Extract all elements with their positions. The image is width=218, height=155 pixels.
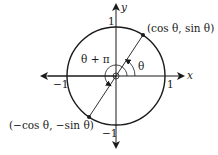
theta-plus-pi-label: θ + π bbox=[81, 54, 110, 65]
x-axis-label: x bbox=[187, 70, 193, 81]
tick-x-neg: −1 bbox=[53, 79, 68, 90]
point-cos-sin bbox=[141, 33, 145, 37]
tick-y-neg: −1 bbox=[102, 128, 117, 139]
point-label-cos-sin: (cos θ, sin θ) bbox=[147, 23, 214, 34]
theta-label: θ bbox=[138, 61, 144, 72]
point-label-neg-cos-neg-sin: (−cos θ, −sin θ) bbox=[9, 120, 94, 131]
tick-x-pos: 1 bbox=[167, 79, 174, 90]
theta-arc bbox=[127, 60, 136, 76]
tick-y-pos: 1 bbox=[108, 16, 115, 27]
y-axis-label: y bbox=[121, 2, 127, 13]
